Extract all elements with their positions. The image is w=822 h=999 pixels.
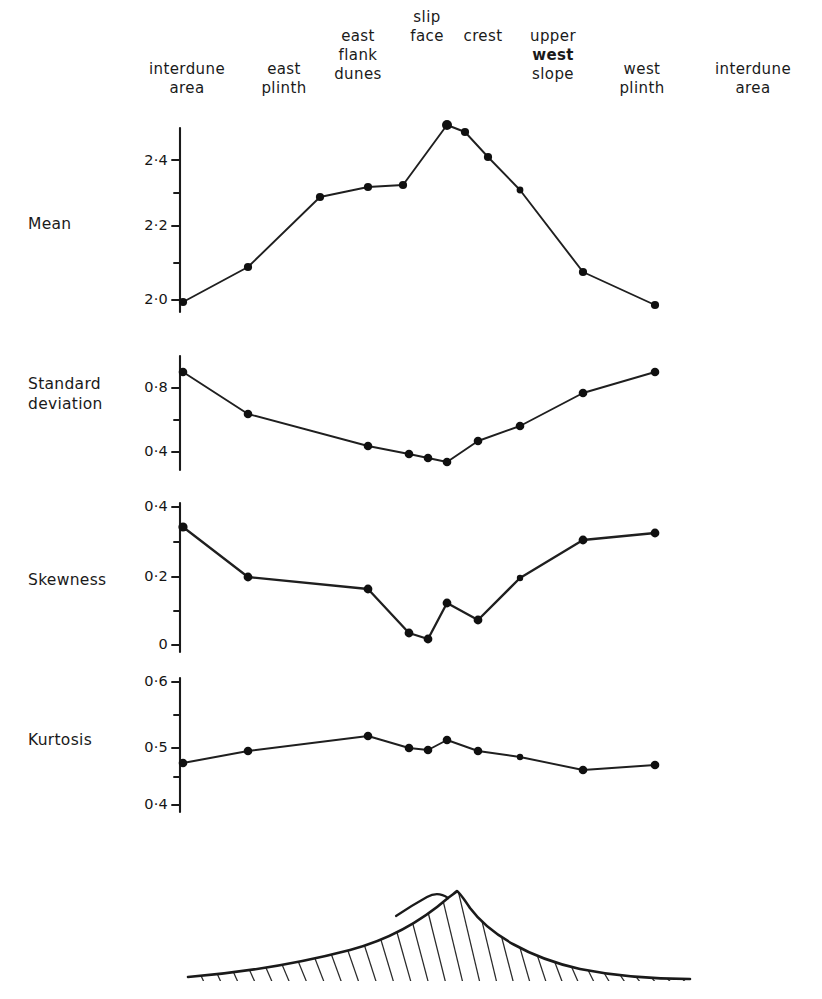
series-mean-markers <box>179 120 659 309</box>
series-kurtosis <box>179 732 660 775</box>
series-skewness <box>178 522 659 643</box>
plot-canvas <box>0 0 822 999</box>
figure-caption <box>4 978 814 998</box>
series-standard-deviation <box>179 368 660 467</box>
series-kurtosis-markers <box>179 732 660 775</box>
series-standard-deviation-markers <box>179 368 660 467</box>
dune-outline <box>188 891 690 979</box>
series-mean <box>179 120 659 309</box>
axis-ticks <box>172 160 180 805</box>
series-skewness-markers <box>178 522 659 643</box>
figure-dune-grain-size-parameters: interdune area east plinth east flank du… <box>0 0 822 999</box>
